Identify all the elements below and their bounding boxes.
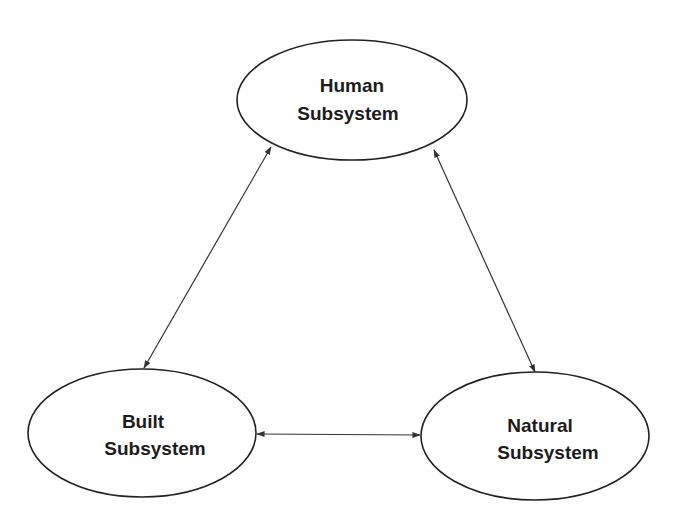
edge-human-natural <box>434 150 535 372</box>
natural-ellipse <box>421 372 649 500</box>
natural-label-line2: Subsystem <box>497 442 598 463</box>
node-natural-subsystem: Natural Subsystem <box>421 372 649 500</box>
human-label-line1: Human <box>320 75 384 96</box>
natural-label-line1: Natural <box>507 415 572 436</box>
subsystems-diagram: Human Subsystem Built Subsystem Natural … <box>0 0 674 523</box>
node-human-subsystem: Human Subsystem <box>237 40 467 160</box>
node-built-subsystem: Built Subsystem <box>28 369 256 497</box>
built-ellipse <box>28 369 256 497</box>
built-label-line1: Built <box>122 411 165 432</box>
edge-built-natural <box>257 434 420 435</box>
edge-human-built <box>144 147 271 368</box>
built-label-line2: Subsystem <box>104 438 205 459</box>
human-label-line2: Subsystem <box>297 103 398 124</box>
human-ellipse <box>237 40 467 160</box>
